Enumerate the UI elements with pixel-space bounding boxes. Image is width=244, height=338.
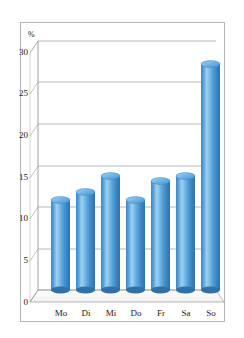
bar-mo [51, 197, 70, 294]
y-axis-unit-label: % [28, 31, 35, 39]
bar-chart: % 30 25 20 15 10 5 0 Mo Di Mi Do Fr Sa S… [0, 0, 244, 338]
x-tick-label-fr: Fr [147, 309, 175, 318]
y-tick-label-20: 20 [10, 131, 28, 140]
x-tick-label-mi: Mi [97, 309, 125, 318]
bar-so [201, 61, 220, 294]
bar-sa [176, 173, 195, 294]
y-tick-label-5: 5 [10, 256, 28, 265]
bar-series [51, 61, 220, 294]
x-tick-label-mo: Mo [47, 309, 75, 318]
bar-mi [101, 173, 120, 294]
bar-di [76, 189, 95, 294]
y-tick-label-10: 10 [10, 214, 28, 223]
y-tick-label-0: 0 [10, 298, 28, 307]
chart-plot-area [0, 0, 244, 338]
bar-fr [151, 178, 170, 294]
y-tick-label-30: 30 [10, 48, 28, 57]
x-tick-label-so: So [197, 309, 225, 318]
x-tick-label-di: Di [72, 309, 100, 318]
y-tick-label-15: 15 [10, 173, 28, 182]
y-tick-label-25: 25 [10, 89, 28, 98]
bar-do [126, 197, 145, 294]
x-tick-label-sa: Sa [172, 309, 200, 318]
x-tick-label-do: Do [122, 309, 150, 318]
